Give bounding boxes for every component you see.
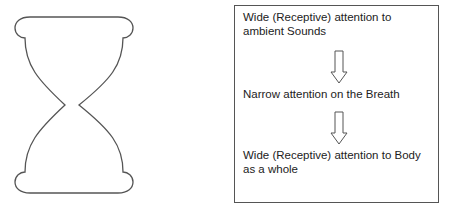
down-arrow-icon <box>330 111 348 145</box>
attention-flow-box: Wide (Receptive) attention to ambient So… <box>234 5 439 203</box>
step-breath: Narrow attention on the Breath <box>243 87 435 101</box>
down-arrow-icon <box>330 50 348 84</box>
hourglass-icon <box>0 0 150 213</box>
step-body-whole: Wide (Receptive) attention to Body as a … <box>243 148 435 176</box>
step-ambient-sounds: Wide (Receptive) attention to ambient So… <box>243 10 435 38</box>
